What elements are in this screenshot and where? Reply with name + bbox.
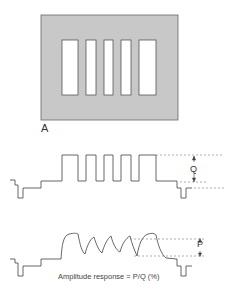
pattern-bar-5 — [139, 40, 156, 95]
pattern-bar-2 — [86, 40, 96, 95]
pattern-bar-4 — [121, 40, 131, 95]
pattern-bar-3 — [104, 40, 113, 95]
panel-label: A — [41, 122, 48, 134]
p-label: P — [197, 239, 203, 249]
input-waveform — [10, 155, 192, 198]
amplitude-response-caption: Amplitude response = P/Q (%) — [58, 272, 160, 281]
output-waveform — [10, 233, 192, 276]
diagram-canvas — [0, 0, 232, 293]
q-label: Q — [190, 164, 197, 174]
pattern-bar-1 — [62, 40, 78, 95]
test-pattern — [41, 15, 178, 120]
